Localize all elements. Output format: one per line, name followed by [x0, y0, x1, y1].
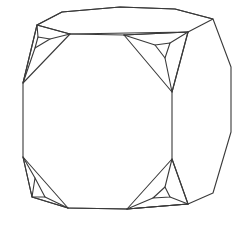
corner-facet-bottom-right [127, 159, 188, 209]
corner-edge-top-left [37, 25, 38, 37]
top-face [37, 7, 213, 34]
corner-edge-bottom-right [170, 197, 188, 204]
corner-facet-top-right [124, 32, 188, 92]
front-face-edge [70, 34, 124, 35]
corner-facet-top-left [23, 25, 70, 83]
corner-edge-top-right [165, 58, 172, 92]
corner-inner-triangle-top-right [155, 43, 170, 58]
corner-inner-triangle-top-left [35, 37, 50, 48]
corner-facet-bottom-left [23, 157, 68, 208]
front-face-edge [68, 208, 127, 209]
corner-inner-triangle-bottom-left [32, 178, 45, 197]
corner-edge-top-left [23, 48, 35, 83]
crystal-diagram [0, 0, 245, 225]
corner-inner-triangle-bottom-right [153, 187, 170, 198]
right-face-edge [172, 32, 188, 204]
crystal-drawing-svg [0, 0, 245, 225]
crystal-outline [23, 7, 231, 209]
